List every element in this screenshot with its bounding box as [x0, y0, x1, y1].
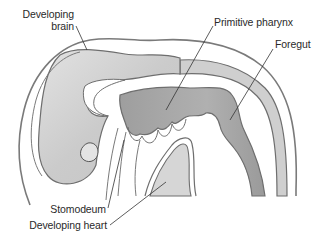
label-developing-brain-line1: Developing — [14, 8, 74, 20]
embryo-diagram: Developing brain Primitive pharynx Foreg… — [0, 0, 323, 238]
developing-heart-shape — [150, 144, 191, 196]
lower-body-wall — [135, 140, 140, 196]
label-developing-brain: Developing brain — [14, 8, 74, 32]
stomodeum-outline — [106, 128, 126, 200]
label-stomodeum: Stomodeum — [30, 203, 106, 215]
label-developing-brain-line2: brain — [14, 20, 74, 32]
leader-stomodeum — [108, 140, 124, 208]
leader-developing-brain — [76, 26, 87, 50]
optic-vesicle — [81, 143, 98, 162]
label-foregut: Foregut — [275, 38, 311, 50]
label-developing-heart: Developing heart — [10, 219, 107, 231]
label-primitive-pharynx: Primitive pharynx — [214, 16, 293, 28]
foregut-pharynx-tube — [120, 87, 265, 196]
